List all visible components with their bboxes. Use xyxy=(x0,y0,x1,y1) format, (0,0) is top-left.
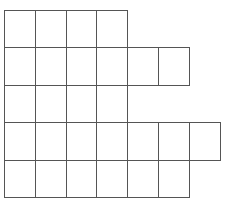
grid-cell xyxy=(158,47,190,86)
grid-cell xyxy=(96,122,128,161)
grid-cell xyxy=(35,160,67,198)
grid-cell xyxy=(66,47,97,86)
grid-cell xyxy=(127,47,159,86)
grid-cell xyxy=(66,85,97,123)
grid-cell xyxy=(96,10,128,48)
grid-cell xyxy=(35,47,67,86)
grid-cell xyxy=(127,160,159,198)
grid-cell xyxy=(35,122,67,161)
grid-cell xyxy=(4,10,36,48)
grid-cell xyxy=(96,160,128,198)
grid-diagram xyxy=(0,0,225,201)
grid-cell xyxy=(35,85,67,123)
grid-cell xyxy=(127,122,159,161)
grid-cell xyxy=(66,122,97,161)
grid-cell xyxy=(158,160,190,198)
grid-cell xyxy=(66,160,97,198)
grid-cell xyxy=(4,85,36,123)
grid-cell xyxy=(4,160,36,198)
grid-cell xyxy=(35,10,67,48)
grid-cell xyxy=(96,85,128,123)
grid-cell xyxy=(4,47,36,86)
grid-cell xyxy=(4,122,36,161)
grid-cell xyxy=(66,10,97,48)
grid-cell xyxy=(96,47,128,86)
grid-cell xyxy=(189,122,221,161)
grid-cell xyxy=(158,122,190,161)
